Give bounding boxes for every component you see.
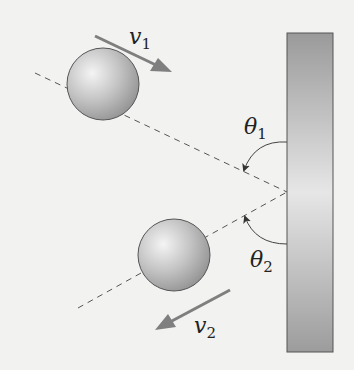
label-v1: v1 — [129, 24, 151, 53]
ball-outgoing — [138, 219, 210, 291]
label-theta1: θ1 — [244, 114, 267, 143]
label-v2: v2 — [194, 313, 216, 342]
angle-arc-theta2 — [245, 217, 287, 244]
velocity-arrow-v2 — [155, 290, 230, 330]
ball-incoming — [67, 48, 139, 120]
wall — [287, 33, 333, 352]
angle-arc-theta1 — [244, 142, 287, 170]
label-theta2: θ2 — [250, 247, 273, 276]
diagram: v1 v2 θ1 θ2 — [0, 0, 354, 370]
collision-diagram: v1 v2 θ1 θ2 — [0, 0, 354, 370]
